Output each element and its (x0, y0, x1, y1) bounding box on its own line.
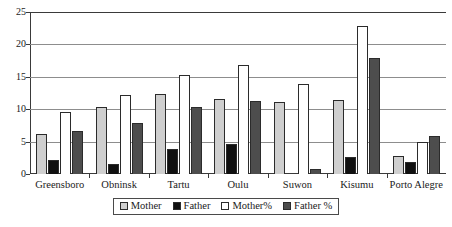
bar (60, 112, 71, 174)
bar (274, 102, 285, 174)
bar (108, 164, 119, 174)
x-axis-label: Greensboro (30, 176, 89, 194)
bar (393, 156, 404, 174)
legend-swatch-icon (120, 202, 128, 210)
bar (238, 65, 249, 174)
bar-group (268, 12, 327, 174)
bar (369, 58, 380, 174)
bar (429, 136, 440, 174)
legend-label: Father (184, 201, 211, 212)
bar (120, 95, 131, 174)
y-axis-tick-label: 20 (16, 39, 26, 49)
bar (179, 75, 190, 174)
plot-area: 0510152025 (30, 12, 446, 174)
bar (333, 100, 344, 174)
bar (226, 144, 237, 174)
bar (96, 107, 107, 174)
y-axis-tick-label: 10 (16, 104, 26, 114)
legend-swatch-icon (221, 202, 229, 210)
bar-group (327, 12, 386, 174)
bar (250, 101, 261, 174)
legend-label: Mother (131, 201, 162, 212)
bar-group (387, 12, 446, 174)
legend-swatch-icon (283, 202, 291, 210)
bar-group (208, 12, 267, 174)
y-axis-tick-label: 25 (16, 7, 26, 17)
bar-group (149, 12, 208, 174)
x-axis-label: Obninsk (89, 176, 148, 194)
bar (357, 26, 368, 174)
bar-chart: 0510152025 GreensboroObninskTartuOuluSuw… (0, 0, 452, 227)
legend-item[interactable]: Mother% (221, 201, 272, 212)
bar (345, 157, 356, 174)
x-axis-label: Porto Alegre (387, 176, 446, 194)
legend-item[interactable]: Mother (120, 201, 162, 212)
x-axis-label: Suwon (268, 176, 327, 194)
x-axis-label: Kisumu (327, 176, 386, 194)
legend-item[interactable]: Father (173, 201, 211, 212)
bar (191, 107, 202, 174)
bar (155, 94, 166, 174)
bar (132, 123, 143, 174)
bar (48, 160, 59, 174)
legend-wrapper: MotherFatherMother%Father % (0, 198, 452, 215)
bar (417, 142, 428, 174)
x-axis-label: Oulu (208, 176, 267, 194)
legend-label: Mother% (232, 201, 272, 212)
x-axis-label: Tartu (149, 176, 208, 194)
bar (36, 134, 47, 174)
x-axis-labels: GreensboroObninskTartuOuluSuwonKisumuPor… (30, 176, 446, 194)
bar (405, 162, 416, 174)
bar (298, 84, 309, 174)
legend-swatch-icon (173, 202, 181, 210)
legend-label: Father % (294, 201, 332, 212)
y-axis-tick-mark (26, 174, 30, 175)
bar-group (89, 12, 148, 174)
bar-groups (30, 12, 446, 174)
bar (214, 99, 225, 174)
chart-legend: MotherFatherMother%Father % (113, 198, 340, 215)
y-axis-tick-label: 15 (16, 72, 26, 82)
bar (310, 169, 321, 174)
legend-item[interactable]: Father % (283, 201, 332, 212)
bar (72, 131, 83, 174)
bar (167, 149, 178, 174)
bar-group (30, 12, 89, 174)
